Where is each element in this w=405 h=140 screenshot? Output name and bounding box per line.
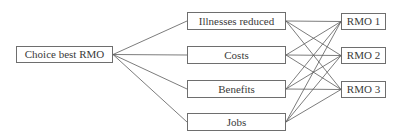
criterion-label: Jobs [227, 117, 247, 128]
criterion-label: Benefits [218, 84, 255, 95]
edge-goal-to-benefits [113, 55, 187, 90]
edge-illnesses-to-rmo1 [286, 21, 341, 22]
alternative-node-rmo-3: RMO 3 [341, 81, 386, 98]
alternative-node-rmo-2: RMO 2 [341, 47, 386, 64]
edge-goal-to-costs [113, 55, 187, 56]
alternative-label: RMO 2 [347, 50, 380, 61]
alternative-node-rmo-1: RMO 1 [341, 13, 386, 30]
criterion-label: Illnesses reduced [199, 16, 274, 27]
criterion-node-illnesses-reduced: Illnesses reduced [187, 12, 286, 30]
goal-label: Choice best RMO [25, 49, 104, 60]
edge-goal-to-jobs [113, 55, 187, 123]
decision-hierarchy-diagram: Choice best RMO Illnesses reduced Costs … [0, 0, 405, 140]
goal-node-choice-best-rmo: Choice best RMO [16, 46, 113, 63]
criterion-node-costs: Costs [187, 46, 286, 64]
alternative-label: RMO 1 [347, 16, 380, 27]
edge-jobs-to-rmo3 [286, 90, 341, 123]
edge-goal-to-illnesses [113, 21, 187, 55]
edge-jobs-to-rmo1 [286, 22, 341, 123]
criterion-node-benefits: Benefits [187, 80, 286, 98]
alternative-label: RMO 3 [347, 84, 380, 95]
criterion-node-jobs: Jobs [187, 113, 286, 131]
criterion-label: Costs [224, 50, 248, 61]
